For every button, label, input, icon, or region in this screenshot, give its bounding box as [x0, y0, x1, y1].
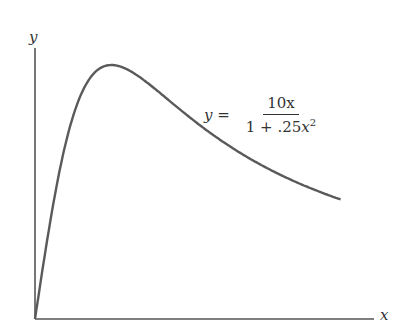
x-axis-label: x — [380, 306, 388, 324]
denominator-exp: 2 — [310, 117, 316, 128]
equation-numerator: 10x — [263, 94, 299, 115]
y-axis-label: y — [29, 28, 37, 46]
chart-plot-area — [0, 0, 402, 330]
equation-fraction: 10x 1 + .25x2 — [246, 94, 316, 136]
equation-denominator: 1 + .25x2 — [246, 115, 316, 136]
denominator-var: x — [301, 118, 309, 136]
function-equation: y = 10x 1 + .25x2 — [204, 94, 316, 136]
equation-lhs: y = — [204, 106, 230, 124]
denominator-prefix: 1 + .25 — [246, 118, 302, 136]
